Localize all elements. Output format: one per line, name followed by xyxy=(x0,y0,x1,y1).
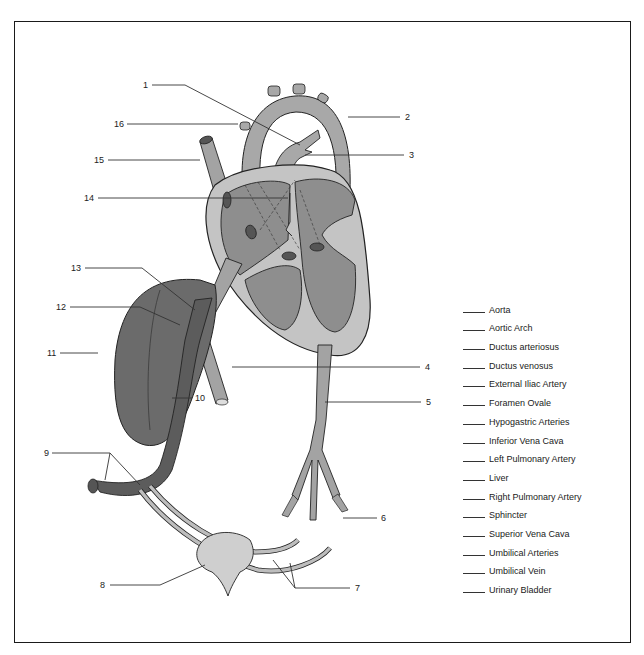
key-label: Left Pulmonary Artery xyxy=(489,454,576,464)
callout-6: 6 xyxy=(381,513,386,523)
key-item: Umbilical Vein xyxy=(463,558,633,577)
answer-blank[interactable] xyxy=(463,536,485,537)
callout-14: 14 xyxy=(84,193,94,203)
callout-1: 1 xyxy=(143,80,148,90)
answer-blank[interactable] xyxy=(463,573,485,574)
key-item: External Iliac Artery xyxy=(463,371,633,390)
answer-blank[interactable] xyxy=(463,405,485,406)
key-label: External Iliac Artery xyxy=(489,379,567,389)
key-item: Ductus venosus xyxy=(463,352,633,371)
answer-blank[interactable] xyxy=(463,480,485,481)
callout-16: 16 xyxy=(114,119,124,129)
callout-numbers: 1 2 3 4 5 6 7 8 9 10 11 12 13 14 15 16 xyxy=(44,80,431,593)
callout-4: 4 xyxy=(425,362,430,372)
key-item: Left Pulmonary Artery xyxy=(463,446,633,465)
answer-key: Aorta Aortic Arch Ductus arteriosus Duct… xyxy=(463,296,633,595)
key-label: Aorta xyxy=(489,305,511,315)
key-item: Hypogastric Arteries xyxy=(463,408,633,427)
key-label: Urinary Bladder xyxy=(489,585,552,595)
key-label: Aortic Arch xyxy=(489,323,533,333)
key-item: Right Pulmonary Artery xyxy=(463,483,633,502)
key-item: Aortic Arch xyxy=(463,315,633,334)
answer-blank[interactable] xyxy=(463,517,485,518)
answer-blank[interactable] xyxy=(463,424,485,425)
key-item: Superior Vena Cava xyxy=(463,520,633,539)
callout-3: 3 xyxy=(409,150,414,160)
key-label: Hypogastric Arteries xyxy=(489,417,570,427)
answer-blank[interactable] xyxy=(463,461,485,462)
key-item: Umbilical Arteries xyxy=(463,539,633,558)
urinary-bladder xyxy=(197,532,253,596)
answer-blank[interactable] xyxy=(463,349,485,350)
key-label: Foramen Ovale xyxy=(489,398,551,408)
descending-aorta xyxy=(282,345,348,520)
key-item: Urinary Bladder xyxy=(463,576,633,595)
key-label: Superior Vena Cava xyxy=(489,529,570,539)
callout-13: 13 xyxy=(71,263,81,273)
key-label: Inferior Vena Cava xyxy=(489,436,564,446)
callout-7: 7 xyxy=(355,583,360,593)
answer-blank[interactable] xyxy=(463,443,485,444)
key-item: Sphincter xyxy=(463,502,633,521)
answer-blank[interactable] xyxy=(463,499,485,500)
answer-blank[interactable] xyxy=(463,592,485,593)
key-label: Umbilical Vein xyxy=(489,566,546,576)
key-item: Foramen Ovale xyxy=(463,389,633,408)
callout-12: 12 xyxy=(56,302,66,312)
callout-10: 10 xyxy=(195,393,205,403)
callout-15: 15 xyxy=(94,155,104,165)
callout-5: 5 xyxy=(426,397,431,407)
key-label: Right Pulmonary Artery xyxy=(489,492,582,502)
answer-blank[interactable] xyxy=(463,312,485,313)
callout-9: 9 xyxy=(44,448,49,458)
key-item: Aorta xyxy=(463,296,633,315)
key-label: Umbilical Arteries xyxy=(489,548,559,558)
callout-8: 8 xyxy=(100,580,105,590)
key-label: Ductus arteriosus xyxy=(489,342,559,352)
key-label: Sphincter xyxy=(489,510,527,520)
callout-2: 2 xyxy=(405,112,410,122)
key-item: Inferior Vena Cava xyxy=(463,427,633,446)
key-label: Ductus venosus xyxy=(489,361,553,371)
answer-blank[interactable] xyxy=(463,330,485,331)
key-label: Liver xyxy=(489,473,509,483)
key-item: Liver xyxy=(463,464,633,483)
answer-blank[interactable] xyxy=(463,386,485,387)
key-item: Ductus arteriosus xyxy=(463,333,633,352)
answer-blank[interactable] xyxy=(463,368,485,369)
callout-11: 11 xyxy=(47,348,56,358)
answer-blank[interactable] xyxy=(463,555,485,556)
